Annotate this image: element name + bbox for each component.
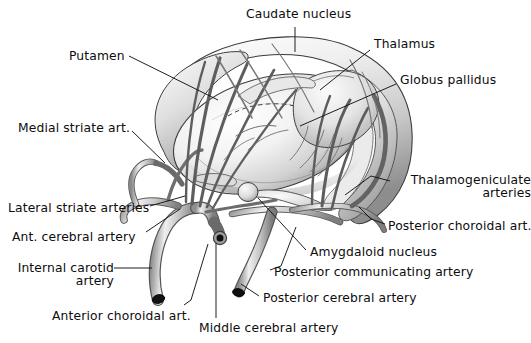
label-middle-cerebral-artery-line-1: Middle cerebral artery [199,321,339,335]
pca-highlight [239,212,272,292]
label-anterior-choroidal-art: Anterior choroidal art. [52,310,191,323]
label-globus-pallidus-line-1: Globus pallidus [400,73,496,87]
label-medial-striate-art-line-1: Medial striate art. [18,121,130,135]
pcom-highlight [232,209,340,222]
label-lateral-striate-arteries-line-1: Lateral striate arteries [8,201,149,215]
label-ant-cerebral-artery: Ant. cerebral artery [12,231,136,244]
amygdaloid-nucleus-body [238,183,258,202]
label-caudate-nucleus-line-1: Caudate nucleus [246,7,351,21]
label-thalamogeniculate-line-2: arteries [392,187,531,200]
leader-anterior-choroidal-art [184,244,208,305]
label-putamen-line-1: Putamen [69,49,125,63]
label-thalamogeniculate-arteries: Thalamogeniculate arteries [392,174,531,200]
label-globus-pallidus: Globus pallidus [400,74,496,87]
label-caudate-nucleus: Caudate nucleus [246,8,351,21]
leader-posterior-communicating [270,227,296,270]
label-posterior-choroidal-art-line-1: Posterior choroidal art. [388,219,531,233]
label-thalamus: Thalamus [374,38,435,51]
label-posterior-choroidal-art: Posterior choroidal art. [388,220,531,233]
label-middle-cerebral-artery: Middle cerebral artery [199,322,339,335]
label-lateral-striate-arteries: Lateral striate arteries [8,202,149,215]
middle-cerebral-cut-end [217,235,224,242]
label-internal-carotid-artery: Internal carotid artery [8,262,114,288]
label-posterior-cerebral-artery-line-1: Posterior cerebral artery [263,291,417,305]
label-thalamus-line-1: Thalamus [374,37,435,51]
label-posterior-communicating-line-1: Posterior communicating artery [274,265,473,279]
label-ant-cerebral-artery-line-1: Ant. cerebral artery [12,230,136,244]
label-putamen: Putamen [69,50,125,63]
label-anterior-choroidal-art-line-1: Anterior choroidal art. [52,309,191,323]
label-internal-carotid-line-2: artery [8,275,114,288]
label-medial-striate-art: Medial striate art. [18,122,130,135]
label-amygdaloid-nucleus-line-1: Amygdaloid nucleus [310,245,437,259]
label-posterior-cerebral-artery: Posterior cerebral artery [263,292,417,305]
label-amygdaloid-nucleus: Amygdaloid nucleus [310,246,437,259]
label-posterior-communicating-artery: Posterior communicating artery [274,266,473,279]
